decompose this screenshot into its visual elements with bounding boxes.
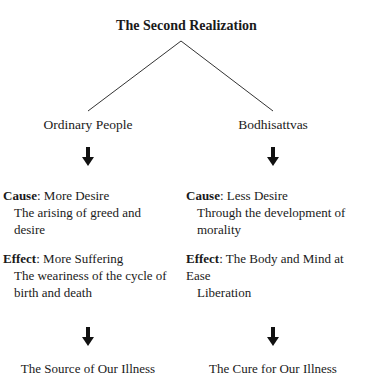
down-arrow-icon bbox=[266, 147, 280, 167]
effect-detail: Liberation bbox=[186, 284, 371, 301]
separator: : bbox=[219, 251, 226, 266]
outcome-source-of-illness: The Source of Our Illness bbox=[0, 361, 178, 377]
cause-detail: The arising of greed and desire bbox=[3, 204, 173, 238]
branch-heading-ordinary-people: Ordinary People bbox=[0, 117, 178, 133]
cause-label: Cause bbox=[3, 188, 37, 203]
down-arrow-icon bbox=[81, 327, 95, 347]
effect-label: Effect bbox=[186, 251, 219, 266]
cause-value: Less Desire bbox=[227, 188, 288, 203]
branch-heading-bodhisattvas: Bodhisattvas bbox=[183, 117, 363, 133]
effect-label: Effect bbox=[3, 251, 36, 266]
effect-block-right: Effect: The Body and Mind at Ease Libera… bbox=[186, 250, 371, 301]
right-branch-line bbox=[181, 41, 273, 111]
separator: : bbox=[37, 188, 44, 203]
down-arrow-icon bbox=[81, 147, 95, 167]
down-arrow-icon bbox=[266, 327, 280, 347]
cause-detail: Through the development of morality bbox=[186, 204, 356, 238]
separator: : bbox=[220, 188, 227, 203]
effect-value: More Suffering bbox=[43, 251, 123, 266]
effect-block-left: Effect: More Suffering The weariness of … bbox=[3, 250, 173, 301]
cause-block-right: Cause: Less Desire Through the developme… bbox=[186, 187, 356, 238]
left-branch-line bbox=[88, 41, 181, 111]
effect-detail: The weariness of the cycle of birth and … bbox=[3, 267, 173, 301]
cause-value: More Desire bbox=[44, 188, 109, 203]
cause-block-left: Cause: More Desire The arising of greed … bbox=[3, 187, 173, 238]
cause-label: Cause bbox=[186, 188, 220, 203]
outcome-cure-for-illness: The Cure for Our Illness bbox=[183, 361, 363, 377]
